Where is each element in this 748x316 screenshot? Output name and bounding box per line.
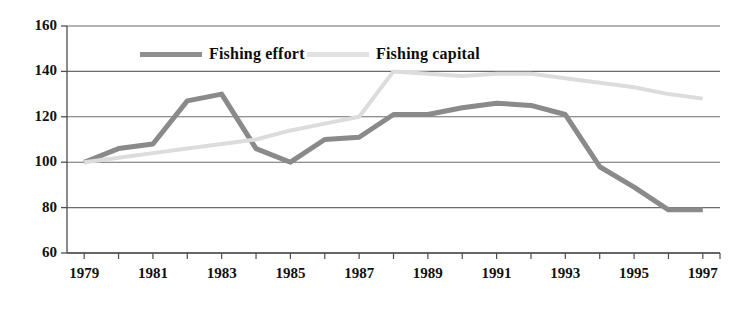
y-tick-label-140: 140 [15,63,57,78]
y-tick-label-120: 120 [15,109,57,124]
legend-item-fishing-capital: Fishing capital [307,45,480,63]
series-line-fishing-effort [84,94,703,210]
x-tick-label-1997: 1997 [673,266,733,281]
y-tick-label-60: 60 [15,245,57,260]
legend-swatch-fishing-effort [140,52,202,57]
legend-item-fishing-effort: Fishing effort [140,45,305,63]
data-series-group [84,71,703,209]
x-tick-label-1989: 1989 [398,266,458,281]
chart-container: 6080100120140160 19791981198319851987198… [0,0,748,316]
x-tick-label-1983: 1983 [192,266,252,281]
x-tick-label-1981: 1981 [123,266,183,281]
x-tick-label-1985: 1985 [260,266,320,281]
x-tick-label-1987: 1987 [329,266,389,281]
legend-swatch-fishing-capital [307,52,369,57]
x-tick-label-1991: 1991 [467,266,527,281]
legend-label-fishing-effort: Fishing effort [209,45,305,63]
x-tick-label-1993: 1993 [535,266,595,281]
y-tick-label-80: 80 [15,200,57,215]
x-tick-label-1995: 1995 [604,266,664,281]
y-tick-label-100: 100 [15,154,57,169]
y-tick-label-160: 160 [15,18,57,33]
x-tick-label-1979: 1979 [54,266,114,281]
legend-label-fishing-capital: Fishing capital [376,45,480,63]
